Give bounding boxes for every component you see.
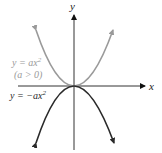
upward-equation-label: y = ax2 xyxy=(11,56,42,68)
parabola-diagram: y x y = ax2 (a > 0) y = −ax2 xyxy=(0,0,162,153)
x-axis-label: x xyxy=(148,80,154,92)
downward-equation-label: y = −ax2 xyxy=(9,89,46,101)
y-axis-label: y xyxy=(69,0,75,12)
downward-parabola xyxy=(36,86,114,143)
upward-condition-label: (a > 0) xyxy=(14,69,43,81)
